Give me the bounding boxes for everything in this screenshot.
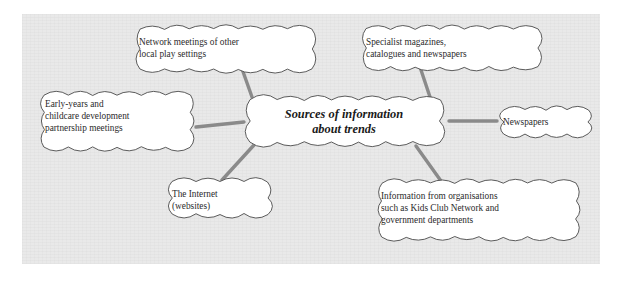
connector-center-to-specialist-magazines [420, 67, 430, 97]
cloud-the-internet [168, 178, 272, 218]
cloud-shapes [41, 25, 592, 241]
connector-center-to-early-years-partnership [196, 122, 244, 127]
connector-center-to-organisations [416, 146, 441, 181]
diagram-canvas: Network meetings of other local play set… [0, 0, 620, 281]
cloud-specialist-magazines [363, 25, 542, 71]
cloud-network-meetings [136, 25, 316, 73]
cloud-newspapers [500, 106, 592, 138]
cloud-center [245, 95, 444, 147]
diagram-graphics [0, 0, 620, 281]
connector-center-to-the-internet [222, 145, 254, 180]
cloud-organisations [378, 179, 580, 241]
cloud-early-years-partnership [41, 91, 194, 151]
